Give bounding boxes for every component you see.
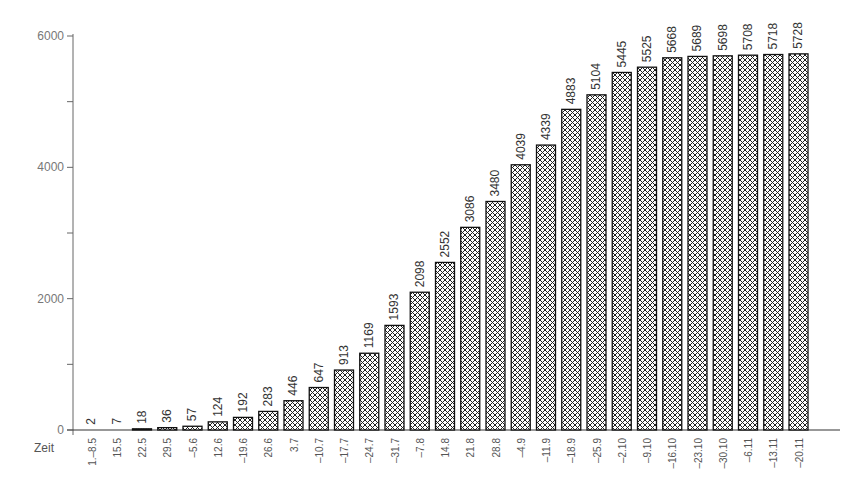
- bar-value-label: 1169: [362, 322, 376, 348]
- bar: [511, 165, 530, 430]
- bar: [587, 95, 606, 430]
- bar-value-label: 3480: [489, 169, 503, 196]
- bar-value-label: 5445: [615, 40, 629, 67]
- bar: [537, 145, 556, 430]
- bar-value-label: 1593: [388, 293, 402, 320]
- x-tick-label: –9.10: [642, 438, 653, 463]
- x-tick-label: –5.6: [188, 438, 199, 458]
- bar: [133, 429, 152, 430]
- x-tick-label: –30.10: [718, 438, 729, 469]
- bar-value-label: 5708: [741, 23, 755, 50]
- bar: [360, 353, 379, 430]
- x-tick-label: –2.10: [617, 438, 628, 463]
- x-tick-label: –7.8: [415, 438, 426, 458]
- x-tick-label: –31.7: [390, 438, 401, 463]
- bar-chart: 0200040006000Zeit 21.–8.5715.51822.53629…: [0, 0, 855, 500]
- bar: [638, 67, 657, 430]
- y-tick-label: 4000: [37, 160, 64, 174]
- bars: [133, 54, 809, 430]
- x-tick-label: –25.9: [592, 438, 603, 463]
- bar-value-label: 4883: [564, 77, 578, 104]
- bar-value-label: 7: [110, 418, 124, 425]
- bar-value-label: 5689: [691, 24, 705, 51]
- x-tick-label: –23.10: [693, 438, 704, 469]
- bar-value-label: 18: [135, 410, 149, 424]
- bar: [739, 55, 758, 430]
- x-tick-label: –10.7: [314, 438, 325, 463]
- x-tick-label: 28.8: [491, 438, 502, 458]
- bar-value-label: 5728: [792, 22, 806, 49]
- bar-value-label: 5718: [766, 22, 780, 49]
- bar-value-label: 5698: [716, 24, 730, 51]
- bar: [335, 370, 354, 430]
- bar: [309, 388, 328, 430]
- x-tick-label: –20.11: [794, 438, 805, 468]
- bar-value-label: 57: [186, 408, 200, 422]
- bar-value-label: 5525: [640, 35, 654, 62]
- bar-value-label: 3086: [463, 195, 477, 222]
- x-tick-label: 15.5: [112, 438, 123, 458]
- bar-value-label: 2098: [413, 260, 427, 287]
- bar-value-label: 124: [211, 397, 225, 417]
- bar-value-label: 5104: [590, 63, 604, 90]
- x-tick-label: –19.6: [238, 438, 249, 463]
- bar-value-label: 647: [312, 362, 326, 382]
- bar: [158, 428, 177, 430]
- bar-value-label: 446: [287, 375, 301, 395]
- bar: [234, 417, 253, 430]
- x-tick-label: 22.5: [137, 438, 148, 458]
- x-tick-label: –4.9: [516, 438, 527, 458]
- bar: [663, 58, 682, 430]
- y-tick-label: 0: [57, 423, 64, 437]
- x-tick-label: –24.7: [364, 438, 375, 463]
- x-tick-label: 14.8: [440, 438, 451, 458]
- bar: [436, 262, 455, 430]
- x-tick-label: 21.8: [465, 438, 476, 458]
- bar: [259, 411, 278, 430]
- bar: [612, 72, 631, 430]
- bar-value-label: 2552: [438, 230, 452, 257]
- bar-value-label: 2: [85, 418, 99, 425]
- x-tick-label: 12.6: [213, 438, 224, 458]
- bar-value-label: 283: [261, 386, 275, 406]
- x-tick-label: 26.6: [263, 438, 274, 458]
- bar: [713, 56, 732, 430]
- x-tick-label: –17.7: [339, 438, 350, 463]
- bar: [486, 201, 505, 430]
- bar: [183, 426, 202, 430]
- bar: [461, 227, 480, 430]
- bar: [284, 401, 303, 430]
- x-tick-label: 3.7: [289, 438, 300, 452]
- bar-value-label: 5668: [665, 26, 679, 53]
- x-axis-title: Zeit: [34, 441, 55, 455]
- bar-value-label: 192: [236, 392, 250, 412]
- bar: [562, 109, 581, 430]
- x-tick-label: –18.9: [566, 438, 577, 463]
- x-tick-label: –13.11: [768, 438, 779, 468]
- bar-value-label: 913: [337, 345, 351, 365]
- bar: [385, 325, 404, 430]
- x-tick-label: –6.11: [743, 438, 754, 463]
- bar-value-label: 4039: [514, 133, 528, 160]
- y-tick-label: 6000: [37, 29, 64, 43]
- x-tick-label: 29.5: [162, 438, 173, 458]
- bar-value-label: 4339: [539, 113, 553, 140]
- x-tick-label: 1.–8.5: [87, 438, 98, 466]
- bar-value-label: 36: [160, 409, 174, 423]
- x-tick-label: –16.10: [667, 438, 678, 469]
- bar: [764, 55, 783, 430]
- bar: [208, 422, 227, 430]
- x-tick-label: –11.9: [541, 438, 552, 463]
- bar: [410, 292, 429, 430]
- bar: [688, 56, 707, 430]
- y-tick-label: 2000: [37, 292, 64, 306]
- bar: [789, 54, 808, 430]
